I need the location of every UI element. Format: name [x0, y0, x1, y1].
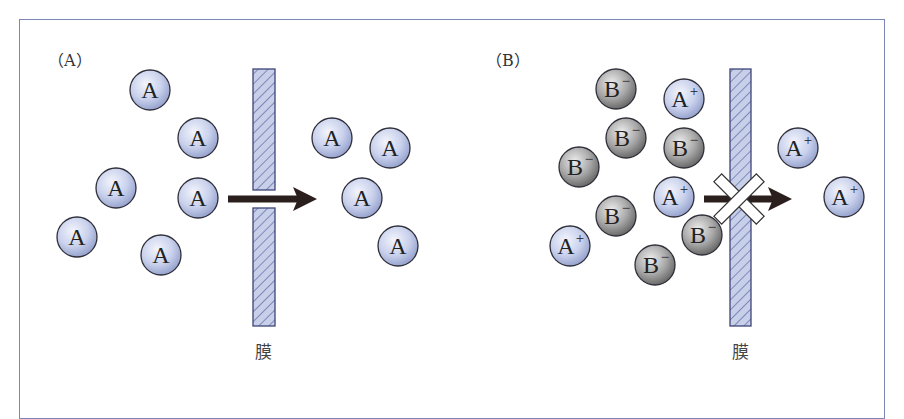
panel-b-label: （B）	[486, 51, 530, 70]
svg-text:A: A	[189, 185, 207, 211]
particles-a: AAAAAAAAAA	[57, 70, 418, 275]
svg-text:A: A	[661, 184, 679, 210]
svg-text:A: A	[353, 185, 371, 211]
anion-b-particle: B−	[596, 196, 636, 236]
anion-b-particle: B−	[596, 69, 636, 109]
svg-text:+: +	[680, 181, 688, 197]
cation-a-particle: A+	[664, 79, 704, 119]
svg-text:A: A	[107, 175, 125, 201]
svg-text:+: +	[576, 230, 584, 246]
svg-text:A: A	[189, 125, 207, 151]
membrane-segment	[253, 208, 275, 326]
solute-a-particle: A	[342, 178, 382, 218]
cation-a-particle: A+	[654, 177, 694, 217]
solute-a-particle: A	[370, 128, 410, 168]
svg-text:B: B	[690, 222, 706, 248]
solute-a-particle: A	[141, 235, 181, 275]
svg-text:−: −	[622, 73, 630, 89]
svg-text:A: A	[381, 135, 399, 161]
solute-a-particle: A	[378, 226, 418, 266]
svg-text:+: +	[804, 132, 812, 148]
svg-text:A: A	[152, 242, 170, 268]
solute-a-particle: A	[178, 178, 218, 218]
svg-text:B: B	[614, 125, 630, 151]
svg-text:−: −	[661, 249, 669, 265]
svg-text:−: −	[585, 151, 593, 167]
svg-text:B: B	[567, 154, 583, 180]
svg-text:−: −	[708, 219, 716, 235]
solute-a-particle: A	[57, 217, 97, 257]
particles-b: B−A+B−B−B−A+B−B−A+B−A+A+	[550, 69, 864, 285]
membrane-segment	[253, 69, 275, 190]
svg-text:−: −	[632, 122, 640, 138]
svg-text:B: B	[643, 252, 659, 278]
solute-a-particle: A	[178, 118, 218, 158]
svg-text:B: B	[604, 76, 620, 102]
svg-text:B: B	[672, 135, 688, 161]
anion-b-particle: B−	[682, 215, 722, 255]
panel-a-label: （A）	[48, 51, 92, 70]
blocked-arrow-b	[704, 174, 792, 224]
membrane-b-label: 膜	[732, 342, 749, 362]
svg-text:A: A	[831, 184, 849, 210]
svg-text:A: A	[785, 135, 803, 161]
cation-a-particle: A+	[550, 226, 590, 266]
anion-b-particle: B−	[559, 147, 599, 187]
anion-b-particle: B−	[635, 245, 675, 285]
solute-a-particle: A	[96, 168, 136, 208]
svg-text:+: +	[690, 83, 698, 99]
svg-text:A: A	[389, 233, 407, 259]
svg-text:A: A	[557, 233, 575, 259]
cation-a-particle: A+	[778, 128, 818, 168]
svg-text:A: A	[141, 77, 159, 103]
anion-b-particle: B−	[606, 118, 646, 158]
svg-text:+: +	[850, 181, 858, 197]
panel-a: （A） AAAAAAAAAA 膜	[48, 51, 418, 362]
svg-text:A: A	[323, 125, 341, 151]
panel-b: （B） B−A+B−B−B−A+B−B−A+B−A+A+ 膜	[486, 51, 864, 362]
membrane-a-label: 膜	[255, 342, 272, 362]
svg-text:A: A	[68, 224, 86, 250]
svg-text:−: −	[690, 132, 698, 148]
svg-text:A: A	[671, 86, 689, 112]
svg-text:B: B	[604, 203, 620, 229]
solute-a-particle: A	[312, 118, 352, 158]
anion-b-particle: B−	[664, 128, 704, 168]
cation-a-particle: A+	[824, 177, 864, 217]
svg-text:−: −	[622, 200, 630, 216]
solute-a-particle: A	[130, 70, 170, 110]
